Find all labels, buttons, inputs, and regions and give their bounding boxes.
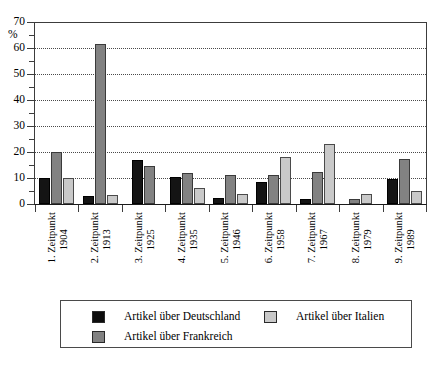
x-axis-label-cell: 7. Zeitpunkt1967 <box>296 212 339 290</box>
x-axis-label-cell: 6. Zeitpunkt1958 <box>252 212 295 290</box>
bar-group <box>383 22 426 204</box>
bar <box>182 173 193 204</box>
bar <box>280 157 291 204</box>
bar <box>83 196 94 204</box>
bar <box>349 199 360 204</box>
legend-item-deutschland: Artikel über Deutschland <box>92 311 240 323</box>
bar <box>312 172 323 205</box>
x-axis-label: 8. Zeitpunkt1979 <box>349 212 372 263</box>
y-axis-tick-label: 60 <box>14 42 26 54</box>
bar <box>268 175 279 204</box>
legend-swatch-frankreich <box>92 331 105 343</box>
y-axis-tick-major <box>27 74 34 75</box>
bar <box>411 191 422 204</box>
legend-item-frankreich: Artikel über Frankreich <box>92 331 233 343</box>
x-axis-label: 4. Zeitpunkt1935 <box>176 212 199 263</box>
y-axis-tick-label: 40 <box>14 94 26 106</box>
y-axis-tick-minor <box>29 87 34 88</box>
bar-group <box>209 22 252 204</box>
x-axis-tick <box>35 205 36 212</box>
bar <box>107 195 118 204</box>
bar <box>39 178 50 204</box>
x-axis-tick <box>209 205 210 212</box>
bar <box>300 199 311 204</box>
y-axis-tick-major <box>27 48 34 49</box>
y-axis-tick-minor <box>29 191 34 192</box>
y-axis-tick-major <box>27 152 34 153</box>
bar <box>95 44 106 204</box>
bar-group <box>165 22 208 204</box>
legend-item-italien: Artikel über Italien <box>264 311 384 323</box>
x-axis-label-cell: 8. Zeitpunkt1979 <box>339 212 382 290</box>
y-axis-tick-major <box>27 126 34 127</box>
bar-groups <box>35 22 426 204</box>
y-axis-tick-minor <box>29 165 34 166</box>
x-axis-label: 5. Zeitpunkt1946 <box>219 212 242 263</box>
bar-chart-figure: % 010203040506070 1. Zeitpunkt19042. Zei… <box>0 0 440 369</box>
y-axis-tick-minor <box>29 113 34 114</box>
bar-group <box>35 22 78 204</box>
x-axis-label-cell: 2. Zeitpunkt1913 <box>78 212 121 290</box>
bar <box>399 159 410 205</box>
chart-legend: Artikel über Deutschland Artikel über Fr… <box>60 300 412 348</box>
x-axis-label-cell: 5. Zeitpunkt1946 <box>209 212 252 290</box>
x-axis-tick <box>122 205 123 212</box>
x-axis-label-cell: 4. Zeitpunkt1935 <box>165 212 208 290</box>
bar <box>63 178 74 204</box>
x-axis-label: 1. Zeitpunkt1904 <box>45 212 68 263</box>
y-axis-tick-label: 30 <box>14 120 26 132</box>
y-axis-tick-major <box>27 22 34 23</box>
y-axis-tick-major <box>27 178 34 179</box>
y-axis-tick-major <box>27 100 34 101</box>
bar-group <box>339 22 382 204</box>
y-axis-tick-minor <box>29 61 34 62</box>
bar <box>213 198 224 205</box>
plot-area: 010203040506070 <box>34 22 427 205</box>
y-axis-tick-minor <box>29 35 34 36</box>
y-axis-unit-label: % <box>8 29 18 41</box>
y-axis-tick-label: 70 <box>14 16 26 28</box>
x-axis-tick <box>383 205 384 212</box>
bar-group <box>252 22 295 204</box>
y-axis-tick-major <box>27 204 34 205</box>
legend-swatch-italien <box>264 311 277 323</box>
bar <box>324 144 335 204</box>
y-axis-tick-label: 20 <box>14 146 26 158</box>
bar <box>144 166 155 204</box>
bar-group <box>296 22 339 204</box>
x-axis-tick <box>339 205 340 212</box>
x-axis-labels: 1. Zeitpunkt19042. Zeitpunkt19133. Zeitp… <box>35 212 426 290</box>
bar <box>225 175 236 204</box>
x-axis-label: 7. Zeitpunkt1967 <box>306 212 329 263</box>
bar-group <box>78 22 121 204</box>
x-axis-tick <box>165 205 166 212</box>
bar <box>194 188 205 204</box>
bar <box>51 152 62 204</box>
bar <box>256 182 267 204</box>
bar <box>132 160 143 204</box>
x-axis-tick <box>78 205 79 212</box>
legend-swatch-deutschland <box>92 311 105 323</box>
x-axis-label-cell: 9. Zeitpunkt1989 <box>383 212 426 290</box>
bar <box>237 194 248 204</box>
bar-group <box>122 22 165 204</box>
x-axis-tick <box>252 205 253 212</box>
y-axis-tick-label: 10 <box>14 172 26 184</box>
legend-label-frankreich: Artikel über Frankreich <box>124 331 233 343</box>
bar <box>170 177 181 204</box>
x-axis-label: 9. Zeitpunkt1989 <box>393 212 416 263</box>
x-axis-label-cell: 1. Zeitpunkt1904 <box>35 212 78 290</box>
x-axis-label: 6. Zeitpunkt1958 <box>262 212 285 263</box>
x-axis-label-cell: 3. Zeitpunkt1925 <box>122 212 165 290</box>
x-axis-label: 2. Zeitpunkt1913 <box>89 212 112 263</box>
y-axis-tick-label: 0 <box>19 198 25 210</box>
y-axis-tick-minor <box>29 139 34 140</box>
bar <box>361 194 372 204</box>
bar <box>387 179 398 204</box>
y-axis-tick-label: 50 <box>14 68 26 80</box>
x-axis-label: 3. Zeitpunkt1925 <box>132 212 155 263</box>
legend-label-deutschland: Artikel über Deutschland <box>124 311 240 323</box>
x-axis-tick <box>296 205 297 212</box>
x-axis-tick <box>426 205 427 212</box>
legend-label-italien: Artikel über Italien <box>296 311 384 323</box>
